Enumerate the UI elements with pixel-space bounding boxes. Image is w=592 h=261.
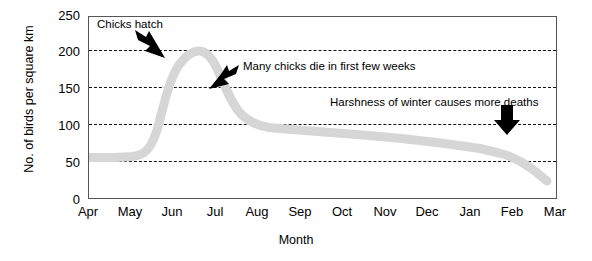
x-tick-label-may: May xyxy=(110,204,150,219)
x-tick-label-jul: Jul xyxy=(195,204,235,219)
x-tick-label-mar: Mar xyxy=(535,204,575,219)
x-tick-label-nov: Nov xyxy=(365,204,405,219)
annotation-arrow-winter-deaths xyxy=(493,104,521,136)
y-tick-label-100: 100 xyxy=(38,118,80,133)
y-tick-label-250: 250 xyxy=(38,8,80,23)
x-tick-label-feb: Feb xyxy=(492,204,532,219)
x-tick-label-oct: Oct xyxy=(322,204,362,219)
x-axis-title: Month xyxy=(0,233,592,247)
x-tick-label-jun: Jun xyxy=(152,204,192,219)
y-tick-label-150: 150 xyxy=(38,81,80,96)
x-tick-label-apr: Apr xyxy=(68,204,108,219)
annotation-label-chicks-die: Many chicks die in first few weeks xyxy=(243,60,416,72)
chart-figure: No. of birds per square km 250 200 150 1… xyxy=(0,0,592,261)
x-tick-label-jan: Jan xyxy=(450,204,490,219)
y-tick-label-200: 200 xyxy=(38,44,80,59)
x-tick-label-dec: Dec xyxy=(407,204,447,219)
annotation-arrow-chicks-die xyxy=(206,63,242,93)
y-axis-title: No. of birds per square km xyxy=(22,0,36,204)
y-tick-label-50: 50 xyxy=(38,155,80,170)
x-tick-label-aug: Aug xyxy=(237,204,277,219)
x-tick-label-sep: Sep xyxy=(280,204,320,219)
annotation-arrow-chicks-hatch xyxy=(132,28,172,64)
